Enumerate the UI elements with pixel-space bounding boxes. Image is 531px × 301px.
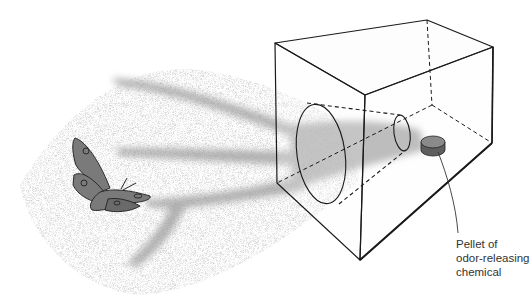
pellet xyxy=(421,136,445,156)
pellet-annotation: Pellet of odor-releasing chemical xyxy=(456,237,530,279)
box xyxy=(275,20,493,260)
annotation-line-3: chemical xyxy=(456,265,530,279)
diagram-canvas xyxy=(0,0,531,301)
annotation-line-2: odor-releasing xyxy=(456,251,530,265)
annotation-line-1: Pellet of xyxy=(456,237,530,251)
